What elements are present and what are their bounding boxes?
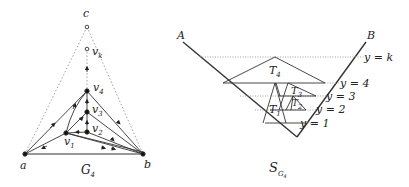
vertex-label-v1: v1: [64, 136, 75, 150]
caption-g4: G4: [81, 164, 95, 179]
v2-sub: 2: [98, 129, 102, 137]
vertex-label-vk: vk: [92, 46, 102, 60]
level-label-2: y = 2: [316, 104, 345, 115]
t3-sub: 3: [298, 91, 302, 99]
vk-sub: k: [98, 52, 102, 60]
vertex-label-v2: v2: [92, 123, 103, 137]
triangle-label-t4: T4: [269, 65, 281, 79]
caption-sg4-text: S: [269, 160, 278, 175]
graph-g4: [23, 25, 145, 156]
triangle-label-t1: T1: [269, 104, 281, 118]
corner-label-a: A: [177, 30, 185, 41]
vertex-label-a: a: [20, 160, 27, 171]
level-label-3: y = 3: [326, 91, 355, 102]
caption-sg4-subsub: 4: [284, 173, 287, 179]
v4-sub: 4: [99, 88, 103, 96]
level-label-4: y = 4: [340, 78, 369, 89]
level-label-k: y = k: [364, 52, 393, 63]
caption-sg4: SG4: [269, 161, 287, 179]
t3-text: T: [291, 85, 298, 96]
vertex-label-b: b: [144, 159, 151, 170]
triangle-label-t2: T2: [292, 99, 302, 111]
caption-g4-sub: 4: [91, 171, 95, 179]
vertex-label-v3: v3: [92, 104, 103, 118]
corner-label-b: B: [367, 30, 375, 41]
t4-sub: 4: [276, 71, 280, 79]
t2-sub: 2: [298, 103, 302, 111]
diagram-canvas: c vk v4 v3 v2 v1 a b G4 A B y = k y = 4 …: [0, 0, 409, 187]
t1-sub: 1: [276, 110, 280, 118]
vertex-label-c: c: [83, 8, 89, 19]
caption-g4-text: G: [81, 163, 91, 177]
caption-sg4-sub: G4: [278, 170, 287, 178]
level-label-1: y = 1: [300, 118, 329, 129]
vertex-label-v4: v4: [93, 82, 104, 96]
v3-sub: 3: [98, 110, 102, 118]
v1-sub: 1: [70, 142, 74, 150]
